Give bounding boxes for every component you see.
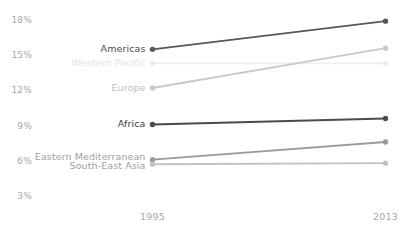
plot-area bbox=[0, 0, 410, 238]
series-point-marker bbox=[383, 116, 388, 121]
series-point-marker bbox=[383, 45, 388, 50]
series-lines bbox=[153, 21, 386, 164]
series-point-marker bbox=[150, 61, 155, 66]
series-point-marker bbox=[383, 160, 388, 165]
slope-chart: 18%15%12%9%6%3% 19952013 AmericasWestern… bbox=[0, 0, 410, 238]
series-point-marker bbox=[383, 61, 388, 66]
series-point-marker bbox=[383, 139, 388, 144]
series-point-marker bbox=[383, 18, 388, 23]
series-line bbox=[153, 48, 386, 88]
series-point-marker bbox=[150, 85, 155, 90]
series-point-marker bbox=[150, 47, 155, 52]
series-point-marker bbox=[150, 162, 155, 167]
series-point-marker bbox=[150, 157, 155, 162]
series-point-marker bbox=[150, 122, 155, 127]
series-line bbox=[153, 163, 386, 164]
series-line bbox=[153, 119, 386, 125]
series-line bbox=[153, 142, 386, 160]
series-line bbox=[153, 21, 386, 49]
